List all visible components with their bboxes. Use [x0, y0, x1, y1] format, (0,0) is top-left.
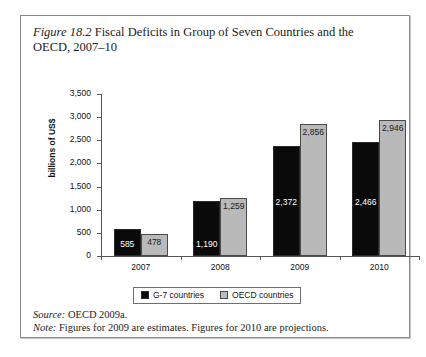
y-axis-tick: 1,000: [97, 210, 101, 211]
x-axis-tick-label: 2009: [260, 262, 340, 272]
x-axis-tick: [101, 256, 102, 260]
bar-g7-2009: 2,372: [273, 146, 300, 256]
source-label: Source:: [33, 309, 65, 320]
bar-value-label: 2,372: [274, 197, 299, 207]
bar-value-label: 1,190: [194, 239, 219, 249]
bar-value-label: 2,466: [353, 197, 378, 207]
legend-item-g7: G-7 countries: [141, 290, 204, 300]
y-axis-tick-label: 2,500: [70, 134, 91, 144]
y-axis-tick-label: 1,500: [70, 181, 91, 191]
note-line: Note: Figures for 2009 are estimates. Fi…: [33, 321, 399, 334]
legend-item-oecd: OECD countries: [220, 290, 293, 300]
bar-chart: billions of US$ 05001,0001,5002,0002,500…: [21, 71, 409, 286]
bar-g7-2010: 2,466: [352, 142, 379, 256]
chart-legend: G-7 countriesOECD countries: [133, 287, 301, 304]
x-axis-tick-label: 2008: [181, 262, 261, 272]
y-axis-tick: 500: [97, 233, 101, 234]
y-axis-tick-label: 3,000: [70, 111, 91, 121]
source-line: Source: OECD 2009a.: [33, 308, 399, 321]
figure-number: Figure 18.2: [33, 25, 92, 39]
bar-value-label: 2,856: [301, 127, 326, 137]
plot-area: 05001,0001,5002,0002,5003,0003,500 20072…: [101, 94, 419, 256]
y-axis-tick-label: 0: [86, 250, 91, 260]
y-axis-tick: 2,000: [97, 163, 101, 164]
x-axis-tick-label: 2010: [340, 262, 420, 272]
bar-value-label: 1,259: [221, 201, 246, 211]
x-axis-tick: [260, 256, 261, 260]
legend-label: G-7 countries: [153, 290, 204, 300]
y-axis-tick-label: 2,000: [70, 157, 91, 167]
bar-g7-2008: 1,190: [193, 201, 220, 256]
y-axis-tick: 2,500: [97, 140, 101, 141]
bar-oecd-2007: 478: [141, 234, 168, 256]
x-axis-tick-label: 2007: [101, 262, 181, 272]
y-axis-tick: 3,500: [97, 94, 101, 95]
source-value: OECD 2009a.: [65, 309, 127, 320]
y-axis-tick: 1,500: [97, 187, 101, 188]
legend-label: OECD countries: [232, 290, 293, 300]
x-axis-tick: [181, 256, 182, 260]
bar-value-label: 478: [142, 237, 167, 247]
y-axis-line: [101, 94, 102, 256]
y-axis-tick-label: 500: [77, 227, 91, 237]
y-axis-tick: 3,000: [97, 117, 101, 118]
bar-g7-2007: 585: [114, 229, 141, 256]
y-axis-tick-label: 3,500: [70, 88, 91, 98]
legend-swatch-oecd: [220, 291, 228, 299]
bar-oecd-2009: 2,856: [300, 124, 327, 256]
note-value: Figures for 2009 are estimates. Figures …: [56, 322, 328, 333]
x-axis-tick: [419, 256, 420, 260]
x-axis-tick: [340, 256, 341, 260]
bar-oecd-2008: 1,259: [220, 198, 247, 256]
figure-caption: Figure 18.2 Fiscal Deficits in Group of …: [33, 25, 391, 55]
figure-frame: Figure 18.2 Fiscal Deficits in Group of …: [20, 15, 410, 338]
bar-value-label: 585: [115, 239, 140, 249]
legend-swatch-g7: [141, 291, 149, 299]
y-axis-title: billions of US$: [47, 93, 57, 203]
bar-oecd-2010: 2,946: [379, 120, 406, 256]
y-axis-tick-label: 1,000: [70, 204, 91, 214]
figure-footnotes: Source: OECD 2009a. Note: Figures for 20…: [33, 308, 399, 334]
note-label: Note:: [33, 322, 56, 333]
bar-value-label: 2,946: [380, 123, 405, 133]
